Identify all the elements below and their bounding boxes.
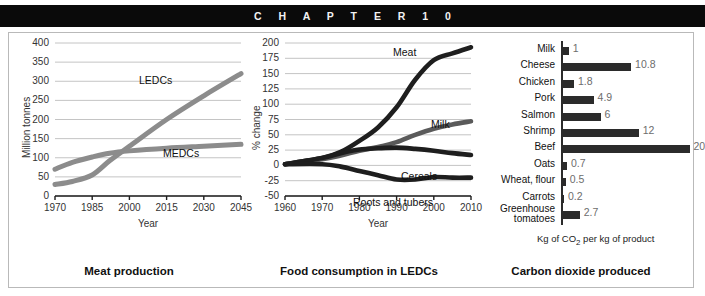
y-axis-tick-label: 0 xyxy=(11,190,49,201)
bar-category-label: Oats xyxy=(469,159,555,169)
series-label-roots: Roots and tubers xyxy=(353,196,433,208)
bar-rect xyxy=(563,178,566,186)
series-label-meat: Meat xyxy=(393,46,416,58)
x-axis-tick-label: 2015 xyxy=(150,202,184,213)
x-axis-title: Year xyxy=(285,218,471,229)
chart-1-caption: Meat production xyxy=(11,265,247,277)
x-axis-tick-label: 1970 xyxy=(38,202,72,213)
y-axis-tick-label: 0 xyxy=(241,159,279,170)
bar-value-label: 12 xyxy=(643,124,655,136)
bar-rect xyxy=(563,129,639,137)
bar-value-label: 6 xyxy=(605,108,611,120)
bar-chart-plot: Milk1Cheese10.8Chicken1.8Pork4.9Salmon6S… xyxy=(469,37,693,247)
bar-category-label: Chicken xyxy=(469,77,555,87)
bar-rect xyxy=(563,145,690,153)
chapter-header-text: C H A P T E R 1 0 xyxy=(247,10,458,22)
bar-rect xyxy=(563,96,594,104)
series-label-cereals: Cereals xyxy=(401,170,437,182)
series-label-ledcs: LEDCs xyxy=(139,74,172,86)
chapter-header-bar: C H A P T E R 1 0 xyxy=(0,5,705,27)
line-chart-1-plot: 0501001502002503003504001970198520002015… xyxy=(11,33,247,248)
bar-category-label: Shrimp xyxy=(469,126,555,136)
x-axis-tick-label: 1960 xyxy=(268,202,302,213)
bar-value-label: 0.2 xyxy=(568,190,583,202)
bar-row: Chicken1.8 xyxy=(469,77,693,93)
bar-row: Milk1 xyxy=(469,44,693,60)
y-axis-tick-label: 200 xyxy=(241,37,279,48)
x-axis-tick-label: 2030 xyxy=(187,202,221,213)
bar-value-label: 2.7 xyxy=(584,206,599,218)
x-axis-tick-label: 1970 xyxy=(305,202,339,213)
series-label-milk: Milk xyxy=(431,118,450,130)
bar-value-label: 20 xyxy=(694,140,705,152)
bar-rect xyxy=(563,195,565,203)
bar-category-label: Wheat, flour xyxy=(469,175,555,185)
bar-value-label: 4.9 xyxy=(598,91,613,103)
y-axis-tick-label: 125 xyxy=(241,83,279,94)
bar-value-label: 1.8 xyxy=(578,75,593,87)
bar-rect xyxy=(563,113,601,121)
y-axis-title: % change xyxy=(251,105,262,149)
y-axis-tick-label: -50 xyxy=(241,190,279,201)
y-axis-tick-label: 175 xyxy=(241,52,279,63)
bar-category-label: Carrots xyxy=(469,192,555,202)
bar-rect xyxy=(563,80,574,88)
y-axis-tick-label: 50 xyxy=(11,171,49,182)
bar-rect xyxy=(563,47,569,55)
bar-chart-x-axis-title: Kg of CO2 per kg of product xyxy=(537,233,654,247)
figure-panel: 0501001502002503003504001970198520002015… xyxy=(8,32,694,288)
bar-value-label: 1 xyxy=(573,42,579,54)
chart-3-caption: Carbon dioxide produced xyxy=(469,265,693,277)
bar-rect xyxy=(563,63,632,71)
chart-food-consumption: -50-250255075100125150175200196019701980… xyxy=(241,33,477,289)
bar-rect xyxy=(563,162,567,170)
x-axis-title: Year xyxy=(55,218,241,229)
y-axis-tick-label: 350 xyxy=(11,56,49,67)
x-axis-tick-label: 2000 xyxy=(112,202,146,213)
x-axis-tick-label: 1985 xyxy=(75,202,109,213)
bar-rect xyxy=(563,211,580,219)
bar-category-label: Cheese xyxy=(469,60,555,70)
chart-meat-production: 0501001502002503003504001970198520002015… xyxy=(11,33,247,289)
bar-value-label: 0.5 xyxy=(570,173,585,185)
line-chart-2-plot: -50-250255075100125150175200196019701980… xyxy=(241,33,477,248)
chart-2-caption: Food consumption in LEDCs xyxy=(241,265,477,277)
y-axis-tick-label: -25 xyxy=(241,175,279,186)
bar-value-label: 10.8 xyxy=(635,58,655,70)
chart-carbon-dioxide: Milk1Cheese10.8Chicken1.8Pork4.9Salmon6S… xyxy=(469,33,693,289)
y-axis-title: Million tonnes xyxy=(21,96,32,157)
bar-row: Salmon6 xyxy=(469,110,693,126)
bar-value-label: 0.7 xyxy=(571,157,586,169)
series-label-medcs: MEDCs xyxy=(163,147,199,159)
y-axis-tick-label: 400 xyxy=(11,37,49,48)
bar-category-label: Greenhousetomatoes xyxy=(469,204,555,223)
bar-row: Shrimp12 xyxy=(469,126,693,142)
bar-category-label: Pork xyxy=(469,93,555,103)
bar-category-label: Salmon xyxy=(469,110,555,120)
bar-category-label: Beef xyxy=(469,142,555,152)
y-axis-tick-label: 300 xyxy=(11,75,49,86)
y-axis-tick-label: 150 xyxy=(241,68,279,79)
bar-row: Pork4.9 xyxy=(469,93,693,109)
bar-row: Greenhousetomatoes2.7 xyxy=(469,208,693,224)
figure-page: C H A P T E R 1 0 0501001502002503003504… xyxy=(0,0,705,296)
bar-category-label: Milk xyxy=(469,44,555,54)
